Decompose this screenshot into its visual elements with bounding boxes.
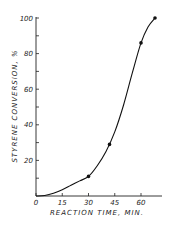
data-point: [87, 175, 91, 179]
x-tick-label: 0: [34, 199, 39, 207]
y-tick-label: 60: [24, 86, 33, 94]
x-tick-label: 15: [58, 199, 67, 207]
data-points: [87, 16, 157, 178]
x-tick-label: 60: [137, 199, 146, 207]
data-point: [139, 41, 143, 45]
y-tick-label: 100: [20, 15, 34, 23]
chart: 01530456020406080100 REACTION TIME, MIN.…: [0, 0, 172, 227]
y-tick-label: 20: [24, 157, 33, 165]
data-point: [153, 16, 157, 20]
y-tick-label: 40: [24, 121, 33, 129]
ticks: [36, 18, 141, 196]
y-tick-label: 80: [24, 50, 33, 58]
axes: [36, 17, 162, 196]
data-point: [108, 143, 112, 147]
x-tick-label: 45: [110, 199, 119, 207]
x-axis-title: REACTION TIME, MIN.: [50, 209, 144, 217]
fitted-curve: [36, 18, 155, 196]
x-tick-label: 30: [84, 199, 93, 207]
y-axis-title: STYRENE CONVERSION, %: [11, 49, 19, 162]
